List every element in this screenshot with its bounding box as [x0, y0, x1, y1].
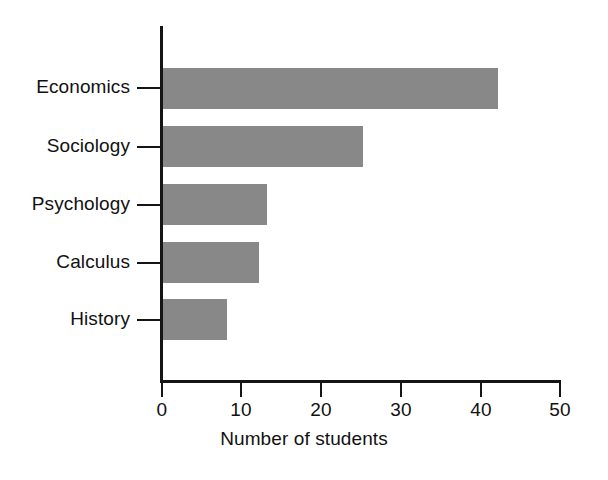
- y-tick-mark: [137, 146, 161, 148]
- x-tick-label-40: 40: [461, 399, 501, 421]
- x-tick-label-50: 50: [540, 399, 580, 421]
- bar-sociology: [163, 126, 363, 167]
- x-tick-mark: [161, 383, 163, 397]
- y-tick-label-sociology: Sociology: [0, 135, 130, 157]
- y-tick-label-psychology: Psychology: [0, 193, 130, 215]
- y-tick-label-calculus: Calculus: [0, 251, 130, 273]
- y-tick-label-economics: Economics: [0, 76, 130, 98]
- bar-history: [163, 299, 227, 340]
- y-tick-mark: [137, 262, 161, 264]
- y-tick-mark: [137, 319, 161, 321]
- x-axis-title: Number of students: [0, 428, 608, 450]
- x-tick-mark: [559, 383, 561, 397]
- x-axis-line: [160, 380, 561, 383]
- bar-psychology: [163, 184, 267, 225]
- x-tick-label-0: 0: [142, 399, 182, 421]
- y-tick-label-history: History: [0, 308, 130, 330]
- x-tick-mark: [400, 383, 402, 397]
- y-tick-mark: [137, 87, 161, 89]
- y-tick-mark: [137, 204, 161, 206]
- x-tick-mark: [240, 383, 242, 397]
- x-tick-label-20: 20: [301, 399, 341, 421]
- bar-calculus: [163, 242, 259, 283]
- bar-economics: [163, 68, 498, 109]
- x-tick-label-30: 30: [381, 399, 421, 421]
- x-tick-mark: [480, 383, 482, 397]
- x-tick-label-10: 10: [221, 399, 261, 421]
- x-tick-mark: [320, 383, 322, 397]
- bar-chart: 0 10 20 30 40 50 Economics Sociology Psy…: [0, 0, 608, 480]
